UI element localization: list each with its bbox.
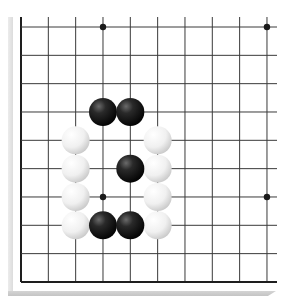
black-stone[interactable] (116, 211, 144, 239)
white-stone[interactable] (144, 211, 172, 239)
go-board[interactable] (0, 0, 290, 304)
star-point-icon (264, 194, 270, 200)
black-stone[interactable] (116, 155, 144, 183)
white-stone[interactable] (62, 211, 90, 239)
star-point-icon (100, 194, 106, 200)
white-stone[interactable] (144, 183, 172, 211)
white-stone[interactable] (62, 126, 90, 154)
black-stone[interactable] (89, 98, 117, 126)
stones (62, 98, 172, 239)
white-stone[interactable] (144, 155, 172, 183)
black-stone[interactable] (116, 98, 144, 126)
white-stone[interactable] (144, 126, 172, 154)
star-point-icon (264, 24, 270, 30)
board-grid[interactable] (0, 0, 290, 304)
star-point-icon (100, 24, 106, 30)
black-stone[interactable] (89, 211, 117, 239)
white-stone[interactable] (62, 183, 90, 211)
white-stone[interactable] (62, 155, 90, 183)
